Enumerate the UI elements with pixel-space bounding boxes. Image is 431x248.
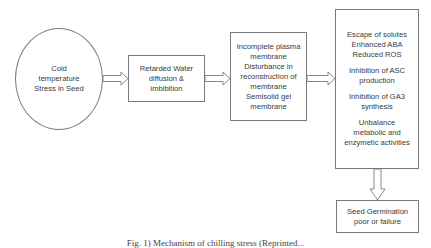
arrow-down-icon xyxy=(370,169,385,200)
arrow-right-icon xyxy=(103,72,128,85)
arrow-right-icon xyxy=(307,72,335,85)
arrow-right-icon xyxy=(205,72,230,85)
figure-caption: Fig. 1) Mechanism of chilling stress (Re… xyxy=(0,238,431,248)
